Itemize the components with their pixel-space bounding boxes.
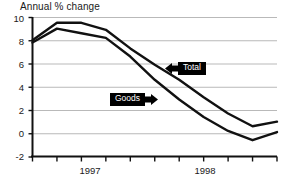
annotation-arrow bbox=[145, 94, 158, 105]
gridlines bbox=[33, 18, 278, 134]
plot-area bbox=[0, 0, 289, 183]
series-annotation-total: Total bbox=[178, 62, 206, 75]
series-annotation-goods: Goods bbox=[110, 93, 145, 106]
series-line-goods bbox=[33, 29, 278, 141]
line-chart: Annual % change 10 8 6 4 2 0 -2 1997 199… bbox=[0, 0, 289, 183]
